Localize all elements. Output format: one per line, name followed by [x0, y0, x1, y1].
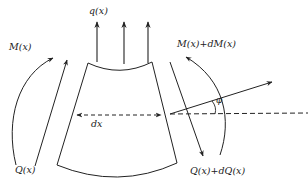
distributed-load-arrows — [97, 22, 148, 64]
beam-element — [57, 62, 177, 177]
moment-left-label: M(x) — [9, 42, 32, 52]
beam-element-diagram — [0, 0, 308, 187]
shear-left-label: Q(x) — [15, 165, 36, 175]
moment-right-label: M(x)+dM(x) — [177, 39, 236, 49]
axis-dashed-line — [170, 113, 308, 114]
shear-left-arrow — [35, 60, 67, 166]
moment-left-arrow — [12, 58, 53, 165]
shear-right-label: Q(x)+dQ(x) — [190, 166, 245, 176]
moment-right-arrow — [186, 57, 225, 155]
dx-label: dx — [91, 119, 102, 129]
distributed-load-label: q(x) — [89, 6, 108, 16]
angle-phi-label: φ — [216, 96, 222, 105]
